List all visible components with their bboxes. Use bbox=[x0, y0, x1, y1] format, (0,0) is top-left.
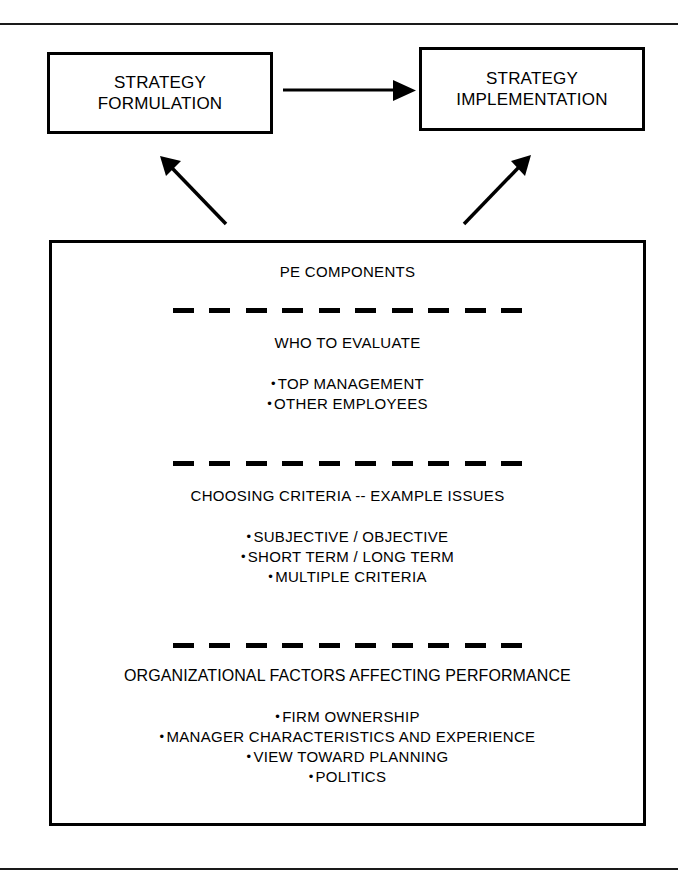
pe-components-title: PE COMPONENTS bbox=[52, 262, 643, 281]
section-heading: CHOOSING CRITERIA -- EXAMPLE ISSUES bbox=[52, 486, 643, 505]
horizontal-arrow-icon bbox=[283, 80, 416, 101]
section-who-to-evaluate: WHO TO EVALUATE •TOP MANAGEMENT •OTHER E… bbox=[52, 333, 643, 414]
list-item-label: FIRM OWNERSHIP bbox=[282, 708, 420, 725]
section-choosing-criteria: CHOOSING CRITERIA -- EXAMPLE ISSUES •SUB… bbox=[52, 486, 643, 587]
process-box-line-2: IMPLEMENTATION bbox=[456, 89, 607, 110]
dashed-separator-1 bbox=[173, 307, 523, 313]
list-item-label: POLITICS bbox=[316, 768, 387, 785]
list-item: •MULTIPLE CRITERIA bbox=[52, 567, 643, 587]
list-item: •FIRM OWNERSHIP bbox=[52, 707, 643, 727]
list-item-label: OTHER EMPLOYEES bbox=[274, 395, 428, 412]
bullet-dot-icon: • bbox=[271, 376, 278, 391]
dashed-separator-2 bbox=[173, 460, 523, 466]
dashed-separator-3 bbox=[173, 642, 523, 648]
list-item-label: SHORT TERM / LONG TERM bbox=[248, 548, 454, 565]
process-box-line-1: STRATEGY bbox=[114, 72, 206, 93]
process-box-line-2: FORMULATION bbox=[98, 93, 223, 114]
bullet-dot-icon: • bbox=[241, 549, 248, 564]
list-item: •POLITICS bbox=[52, 767, 643, 787]
page-rule-bottom bbox=[0, 868, 678, 870]
process-box-strategy-formulation: STRATEGY FORMULATION bbox=[47, 52, 273, 134]
diagonal-arrow-right-icon bbox=[464, 155, 531, 224]
section-heading: ORGANIZATIONAL FACTORS AFFECTING PERFORM… bbox=[52, 666, 643, 685]
list-item: •TOP MANAGEMENT bbox=[52, 374, 643, 394]
section-organizational-factors: ORGANIZATIONAL FACTORS AFFECTING PERFORM… bbox=[52, 666, 643, 787]
pe-components-box: PE COMPONENTS WHO TO EVALUATE •TOP MANAG… bbox=[49, 240, 646, 826]
section-bullet-list: •SUBJECTIVE / OBJECTIVE •SHORT TERM / LO… bbox=[52, 527, 643, 587]
list-item: •MANAGER CHARACTERISTICS AND EXPERIENCE bbox=[52, 727, 643, 747]
diagram-page: STRATEGY FORMULATION STRATEGY IMPLEMENTA… bbox=[0, 0, 678, 877]
list-item: •OTHER EMPLOYEES bbox=[52, 394, 643, 414]
process-box-strategy-implementation: STRATEGY IMPLEMENTATION bbox=[419, 47, 645, 131]
list-item-label: SUBJECTIVE / OBJECTIVE bbox=[253, 528, 448, 545]
pe-components-title-text: PE COMPONENTS bbox=[52, 262, 643, 281]
bullet-dot-icon: • bbox=[309, 769, 316, 784]
list-item-label: VIEW TOWARD PLANNING bbox=[253, 748, 448, 765]
list-item: •SUBJECTIVE / OBJECTIVE bbox=[52, 527, 643, 547]
list-item: •SHORT TERM / LONG TERM bbox=[52, 547, 643, 567]
section-heading: WHO TO EVALUATE bbox=[52, 333, 643, 352]
diagonal-arrow-left-icon bbox=[160, 156, 226, 224]
list-item-label: TOP MANAGEMENT bbox=[278, 375, 424, 392]
list-item: •VIEW TOWARD PLANNING bbox=[52, 747, 643, 767]
page-rule-top bbox=[0, 23, 678, 25]
process-box-line-1: STRATEGY bbox=[486, 68, 578, 89]
list-item-label: MANAGER CHARACTERISTICS AND EXPERIENCE bbox=[166, 728, 535, 745]
section-bullet-list: •TOP MANAGEMENT •OTHER EMPLOYEES bbox=[52, 374, 643, 414]
section-bullet-list: •FIRM OWNERSHIP •MANAGER CHARACTERISTICS… bbox=[52, 707, 643, 787]
list-item-label: MULTIPLE CRITERIA bbox=[275, 568, 427, 585]
